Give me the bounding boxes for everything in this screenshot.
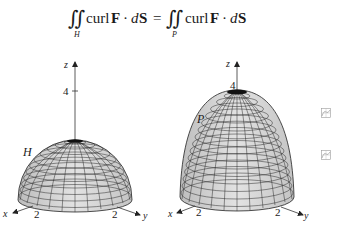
z-axis-label: z bbox=[225, 58, 230, 69]
surface-label-H: H bbox=[22, 145, 33, 159]
paraboloid-apex bbox=[227, 90, 247, 95]
graph-icon[interactable] bbox=[321, 108, 331, 118]
y-axis-label: y bbox=[303, 210, 309, 221]
x-axis bbox=[177, 206, 195, 213]
y-axis bbox=[117, 207, 140, 215]
x-tick-label: 2 bbox=[34, 208, 40, 220]
x-axis bbox=[13, 206, 33, 213]
x-axis-label: x bbox=[2, 208, 8, 219]
figures-canvas: z 4 H x bbox=[0, 0, 341, 237]
x-tick-label: 2 bbox=[196, 206, 202, 218]
hemisphere-top bbox=[67, 139, 83, 143]
surface-label-P: P bbox=[196, 112, 205, 126]
z-tick-label: 4 bbox=[230, 79, 236, 91]
y-axis bbox=[281, 207, 303, 215]
y-axis-label: y bbox=[142, 210, 148, 221]
graph-icon[interactable] bbox=[321, 150, 331, 160]
y-tick-label: 2 bbox=[112, 208, 118, 220]
paraboloid-figure: z 4 bbox=[167, 58, 309, 221]
y-tick-label: 2 bbox=[275, 206, 281, 218]
x-axis-label: x bbox=[167, 208, 173, 219]
z-axis-label: z bbox=[63, 59, 68, 70]
hemisphere-figure: z 4 H x bbox=[2, 59, 148, 221]
z-tick-label: 4 bbox=[63, 85, 69, 97]
